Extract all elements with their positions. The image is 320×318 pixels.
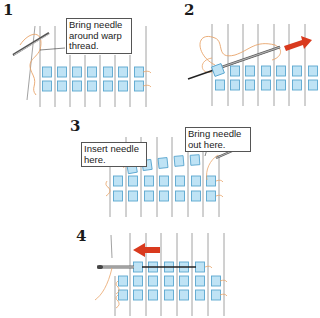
panel-2: [188, 24, 318, 106]
needle: [13, 33, 49, 55]
step-3-bring-out-callout: Bring needle out here.: [185, 127, 251, 152]
leader-line: [40, 48, 65, 50]
bead-rows: [43, 67, 144, 91]
arrow-right-icon: [284, 36, 312, 51]
step-1-callout: Bring needle around warp thread.: [66, 18, 132, 54]
panel-4: [95, 233, 227, 316]
needle: [216, 151, 232, 158]
arrow-left-icon: [133, 243, 160, 257]
step-3-insert-callout: Insert needle here.: [81, 142, 147, 167]
weaving-diagram: [0, 0, 320, 318]
